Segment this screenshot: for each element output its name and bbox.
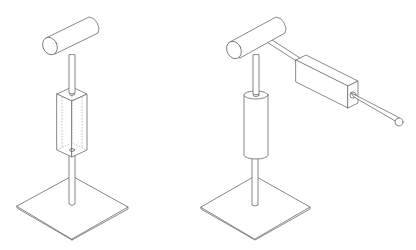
left-lower-rod	[69, 153, 75, 206]
right-ball-tip	[395, 118, 403, 126]
right-lower-rod	[252, 155, 258, 206]
right-cylinder-sleeve	[244, 91, 268, 159]
left-apparatus	[17, 17, 128, 240]
left-upper-rod	[69, 55, 75, 94]
right-arm-rod-back	[266, 38, 300, 61]
right-rectangular-block	[296, 55, 358, 108]
left-cylinder-handle	[40, 17, 99, 57]
left-square-block	[57, 87, 87, 157]
right-arm-rod-front	[351, 93, 399, 122]
right-apparatus	[201, 17, 403, 240]
right-cylinder-handle	[224, 17, 286, 61]
right-upper-rod	[253, 55, 259, 95]
diagram-canvas	[0, 0, 416, 250]
